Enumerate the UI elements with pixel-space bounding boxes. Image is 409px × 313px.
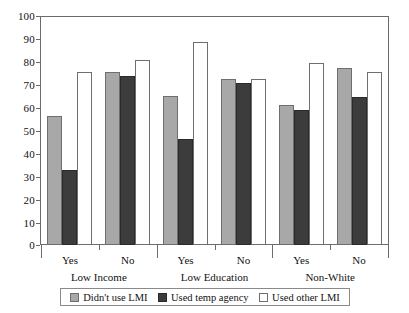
y-axis-tick: 40 <box>2 148 40 160</box>
x-axis-minor-tick <box>215 245 216 250</box>
bar-group <box>157 17 215 245</box>
bar <box>62 170 77 245</box>
y-axis-tick: 50 <box>2 125 40 137</box>
dark-gray-swatch-icon <box>158 293 167 302</box>
legend-item-used-other-lmi: Used other LMI <box>259 292 340 303</box>
bar-group <box>41 17 99 245</box>
y-axis-tick: 90 <box>2 33 40 45</box>
bar <box>352 97 367 245</box>
bar <box>236 83 251 245</box>
x-axis-tick-label: No <box>330 254 388 266</box>
x-axis-group-label: Low Income <box>41 271 157 283</box>
x-axis: YesNoYesNoYesNoLow IncomeLow EducationNo… <box>0 245 409 285</box>
bar <box>47 116 62 245</box>
x-axis-group-label: Low Education <box>157 271 273 283</box>
bar-group <box>272 17 330 245</box>
bar <box>77 72 92 245</box>
bar <box>337 68 352 245</box>
chart-legend: Didn't use LMI Used temp agency Used oth… <box>60 288 350 306</box>
white-swatch-icon <box>259 293 268 302</box>
bars-layer <box>41 17 388 245</box>
x-axis-group-separator <box>272 245 273 258</box>
x-axis-edge-separator <box>388 245 389 258</box>
y-axis-tick: 70 <box>2 79 40 91</box>
bar-group <box>215 17 273 245</box>
bar <box>120 76 135 245</box>
bar-group <box>330 17 388 245</box>
x-axis-tick-label: Yes <box>41 254 99 266</box>
legend-label: Didn't use LMI <box>83 292 147 303</box>
x-axis-minor-tick <box>330 245 331 250</box>
x-axis-tick-label: Yes <box>272 254 330 266</box>
chart-container: 100 90 80 70 60 50 40 30 20 10 0 YesNoYe… <box>0 0 409 313</box>
x-axis-group-label: Non-White <box>272 271 388 283</box>
bar <box>193 42 208 245</box>
bar <box>135 60 150 245</box>
legend-label: Used temp agency <box>171 292 249 303</box>
y-axis-tick: 20 <box>2 194 40 206</box>
bar <box>178 139 193 245</box>
bar <box>309 63 324 245</box>
bar <box>221 79 236 245</box>
y-axis-tick: 30 <box>2 171 40 183</box>
bar <box>251 79 266 245</box>
y-axis-tick: 100 <box>2 10 40 22</box>
x-axis-tick-label: No <box>215 254 273 266</box>
y-axis: 100 90 80 70 60 50 40 30 20 10 0 <box>0 0 40 250</box>
x-axis-minor-tick <box>99 245 100 250</box>
y-axis-tick: 80 <box>2 56 40 68</box>
bar-group <box>99 17 157 245</box>
x-axis-edge-separator <box>41 245 42 258</box>
legend-label: Used other LMI <box>272 292 340 303</box>
y-axis-tick: 10 <box>2 217 40 229</box>
x-axis-tick-label: No <box>99 254 157 266</box>
bar <box>163 96 178 245</box>
bar <box>279 105 294 245</box>
bar <box>367 72 382 245</box>
y-axis-tick: 60 <box>2 102 40 114</box>
legend-item-didnt-use-lmi: Didn't use LMI <box>70 292 147 303</box>
x-axis-tick-label: Yes <box>157 254 215 266</box>
bar <box>105 72 120 245</box>
light-gray-swatch-icon <box>70 293 79 302</box>
bar <box>294 110 309 245</box>
x-axis-group-separator <box>157 245 158 258</box>
legend-item-used-temp-agency: Used temp agency <box>158 292 249 303</box>
